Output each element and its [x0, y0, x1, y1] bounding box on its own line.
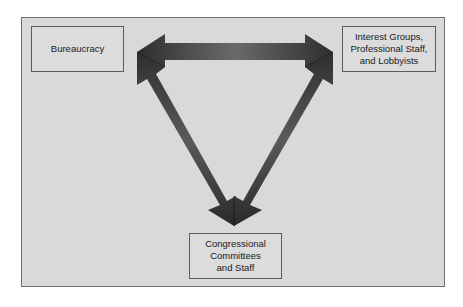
node-bureaucracy: Bureaucracy: [31, 26, 124, 72]
node-interest-groups-label: Interest Groups, Professional Staff, and…: [351, 31, 428, 67]
arrow-bureaucracy-interest-groups: [137, 34, 333, 67]
node-interest-groups: Interest Groups, Professional Staff, and…: [342, 26, 436, 72]
arrow-bureaucracy-congress: [137, 52, 236, 226]
node-congress-label: Congressional Committees and Staff: [205, 238, 266, 274]
arrow-interest-groups-congress: [234, 52, 333, 226]
node-congressional-committees: Congressional Committees and Staff: [189, 233, 282, 279]
node-bureaucracy-label: Bureaucracy: [51, 43, 104, 55]
